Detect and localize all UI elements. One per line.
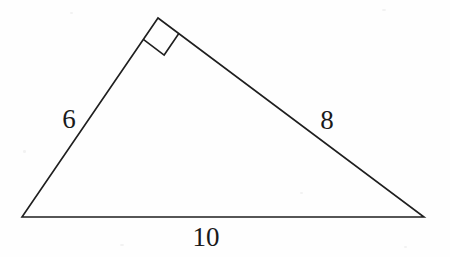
right-angle-marker-icon	[143, 34, 178, 55]
side-label-right-leg: 8	[320, 107, 334, 134]
side-label-base: 10	[193, 224, 220, 251]
triangle-outline	[22, 18, 424, 217]
triangle-figure: 6 8 10	[0, 0, 450, 257]
side-label-left-leg: 6	[62, 106, 76, 133]
